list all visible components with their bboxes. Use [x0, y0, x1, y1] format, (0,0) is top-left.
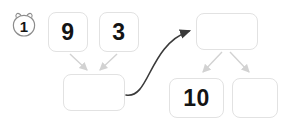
edge-target-to-ten — [203, 52, 222, 72]
node-output-ten-label: 10 — [183, 87, 210, 110]
node-result-empty[interactable] — [63, 74, 125, 111]
node-operand-right-label: 3 — [112, 21, 125, 44]
edge-3-to-result — [100, 54, 117, 70]
node-operand-left-label: 9 — [61, 21, 74, 44]
diagram-canvas: 1 9 3 10 — [0, 0, 284, 120]
node-output-ten[interactable]: 10 — [169, 78, 224, 118]
node-output-empty[interactable] — [232, 78, 278, 118]
edge-target-to-empty — [230, 52, 249, 72]
step-badge-value: 1 — [9, 11, 39, 39]
node-target-empty[interactable] — [196, 13, 258, 50]
node-operand-right[interactable]: 3 — [99, 12, 139, 52]
edge-9-to-result — [70, 54, 87, 70]
node-operand-left[interactable]: 9 — [48, 12, 88, 52]
step-badge: 1 — [9, 11, 39, 39]
